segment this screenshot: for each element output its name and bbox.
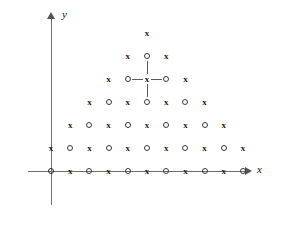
lattice-marker-circle xyxy=(160,165,172,177)
crosshair-arm-left xyxy=(132,79,143,80)
lattice-marker-circle xyxy=(103,142,115,154)
lattice-marker-cross: x xyxy=(160,142,172,154)
lattice-marker-cross: x xyxy=(199,142,211,154)
lattice-marker-circle xyxy=(83,165,95,177)
lattice-marker-circle xyxy=(179,142,191,154)
lattice-marker-circle xyxy=(141,96,153,108)
lattice-marker-circle xyxy=(199,119,211,131)
lattice-marker-cross: x xyxy=(64,165,76,177)
lattice-marker-cross: x xyxy=(179,165,191,177)
lattice-marker-cross: x xyxy=(64,119,76,131)
lattice-marker-cross: x xyxy=(160,96,172,108)
lattice-marker-cross: x xyxy=(103,119,115,131)
lattice-marker-circle xyxy=(218,142,230,154)
crosshair-arm-right xyxy=(151,79,162,80)
lattice-marker-cross: x xyxy=(160,50,172,62)
lattice-marker-cross: x xyxy=(122,142,134,154)
lattice-marker-cross: x xyxy=(141,27,153,39)
x-axis-label: x xyxy=(257,164,262,175)
x-axis-line xyxy=(28,171,246,172)
lattice-marker-circle xyxy=(199,165,211,177)
lattice-marker-circle xyxy=(64,142,76,154)
lattice-marker-circle xyxy=(160,119,172,131)
crosshair-arm-up xyxy=(147,61,148,74)
lattice-marker-cross: x xyxy=(141,165,153,177)
y-axis-label: y xyxy=(62,9,67,20)
lattice-marker-cross: x xyxy=(218,165,230,177)
lattice-marker-circle xyxy=(122,119,134,131)
lattice-marker-cross: x xyxy=(237,142,249,154)
crosshair-arm-down xyxy=(147,84,148,97)
lattice-marker-circle xyxy=(237,165,249,177)
lattice-marker-cross: x xyxy=(83,142,95,154)
lattice-marker-cross: x xyxy=(122,96,134,108)
lattice-marker-cross: x xyxy=(179,73,191,85)
lattice-marker-circle xyxy=(122,165,134,177)
lattice-marker-cross: x xyxy=(45,142,57,154)
lattice-marker-cross: x xyxy=(103,73,115,85)
lattice-marker-cross: x xyxy=(83,96,95,108)
lattice-diagram: x y xxxxxxxxxxxxxxxxxxxxxxxxxx xyxy=(0,0,284,226)
lattice-marker-cross: x xyxy=(103,165,115,177)
arrow-up-icon xyxy=(47,12,55,19)
lattice-marker-circle xyxy=(141,142,153,154)
lattice-marker-cross: x xyxy=(199,96,211,108)
lattice-marker-cross: x xyxy=(179,119,191,131)
lattice-marker-cross: x xyxy=(218,119,230,131)
lattice-marker-circle xyxy=(83,119,95,131)
lattice-marker-circle xyxy=(179,96,191,108)
lattice-marker-cross: x xyxy=(122,50,134,62)
lattice-marker-cross: x xyxy=(141,119,153,131)
lattice-marker-circle xyxy=(103,96,115,108)
lattice-marker-circle xyxy=(45,165,57,177)
